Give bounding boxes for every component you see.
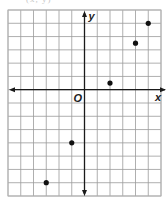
data-point [107,80,112,85]
data-point [44,180,49,185]
y-axis-down-arrow-icon [82,190,87,196]
data-point [69,140,74,145]
y-axis-up-arrow-icon [82,11,87,17]
y-axis-label: y [88,10,96,22]
x-axis-label: x [154,91,162,103]
axes [9,11,166,196]
data-point [133,41,138,46]
origin-label: O [74,92,83,104]
x-axis-left-arrow-icon [9,87,15,92]
coordinate-plane: x y O [0,0,168,212]
data-point [146,21,151,26]
